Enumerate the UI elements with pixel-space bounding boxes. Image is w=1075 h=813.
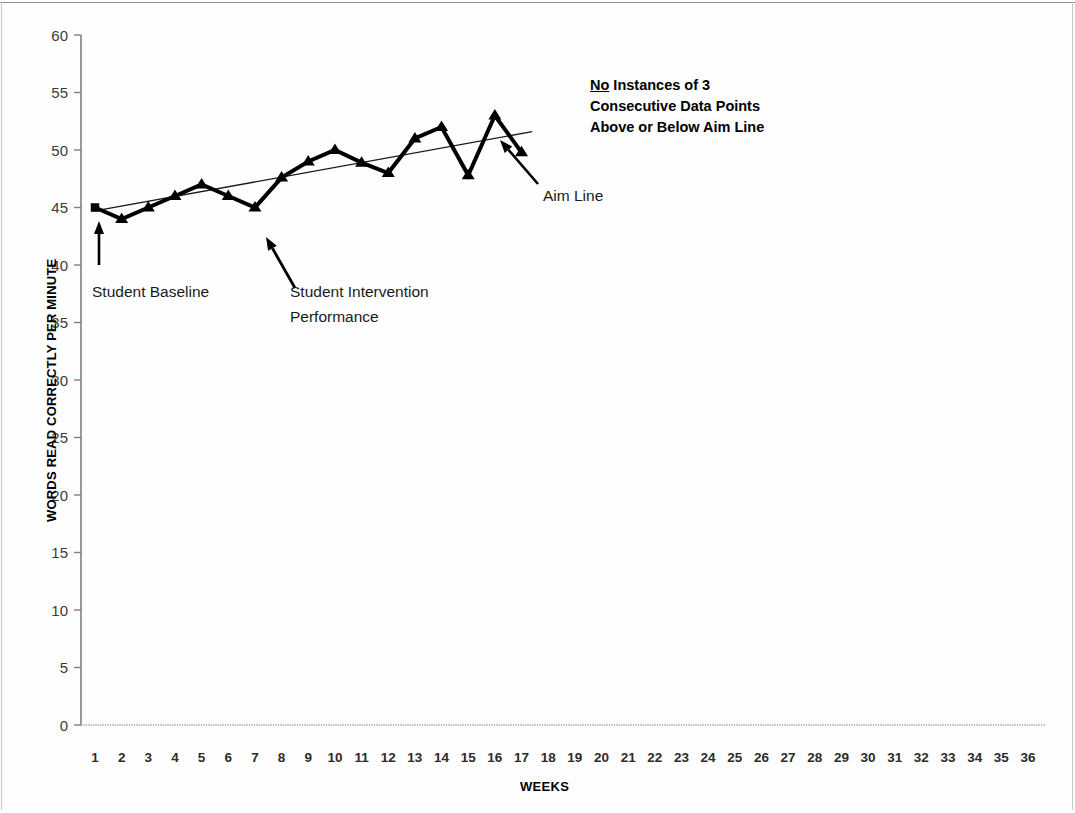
y-axis-title-container: WORDS READ CORRECTLY PER MINUTE <box>28 248 48 528</box>
x-tick-label: 22 <box>647 750 662 765</box>
x-tick-label: 6 <box>225 750 233 765</box>
x-tick-label: 36 <box>1020 750 1036 765</box>
series-polyline <box>95 116 522 220</box>
x-tick-label: 24 <box>701 750 717 765</box>
x-tick-label: 17 <box>514 750 529 765</box>
x-tick-label: 16 <box>487 750 503 765</box>
x-tick-label: 7 <box>251 750 259 765</box>
x-tick-label: 23 <box>674 750 690 765</box>
x-tick-label: 8 <box>278 750 286 765</box>
x-tick-label: 31 <box>887 750 903 765</box>
data-point-triangle <box>328 143 341 154</box>
x-tick-label: 19 <box>567 750 582 765</box>
student-intervention-arrow <box>266 237 295 288</box>
annotation-arrows <box>94 140 538 288</box>
annotation-student-intervention-line2: Performance <box>290 308 379 325</box>
x-tick-label: 4 <box>171 750 179 765</box>
annotation-student-intervention-line1: Student Intervention <box>290 283 429 300</box>
x-tick-label: 12 <box>381 750 396 765</box>
x-tick-label: 29 <box>834 750 849 765</box>
x-tick-label: 9 <box>304 750 312 765</box>
callout-line-2: Consecutive Data Points <box>590 96 764 117</box>
x-tick-label: 25 <box>727 750 743 765</box>
x-tick-label: 32 <box>914 750 929 765</box>
x-tick-label: 35 <box>994 750 1010 765</box>
y-tick-label: 0 <box>60 717 68 734</box>
x-tick-label: 5 <box>198 750 206 765</box>
student-baseline-arrow <box>94 221 104 265</box>
y-tick-label: 60 <box>51 27 68 44</box>
data-point-triangle <box>195 178 208 189</box>
x-tick-label: 15 <box>461 750 477 765</box>
y-tick-label: 50 <box>51 142 68 159</box>
x-tick-label: 11 <box>354 750 369 765</box>
data-point-triangle <box>488 109 501 120</box>
x-axis-title: WEEKS <box>520 779 569 794</box>
y-tick-label: 15 <box>51 544 68 561</box>
callout-line-1-rest: Instances of 3 <box>609 77 710 93</box>
x-tick-label: 30 <box>861 750 876 765</box>
y-tick-label: 45 <box>51 199 68 216</box>
annotation-labels: Student BaselineStudent InterventionPerf… <box>92 187 603 325</box>
x-tick-label: 10 <box>327 750 342 765</box>
x-tick-label: 28 <box>807 750 823 765</box>
x-tick-label: 18 <box>541 750 557 765</box>
annotation-student-baseline: Student Baseline <box>92 283 209 300</box>
x-tick-label: 3 <box>145 750 153 765</box>
data-point-triangle <box>435 120 448 131</box>
x-tick-label: 34 <box>967 750 983 765</box>
callout-line-3: Above or Below Aim Line <box>590 117 764 138</box>
x-tick-label: 1 <box>91 750 99 765</box>
x-tick-label: 27 <box>781 750 796 765</box>
annotation-aim-line-label: Aim Line <box>543 187 603 204</box>
y-tick-label: 5 <box>60 659 68 676</box>
x-tick-label: 20 <box>594 750 609 765</box>
x-tick-label: 13 <box>407 750 423 765</box>
chart-page: 051015202530354045505560 123456789101112… <box>0 0 1075 813</box>
callout-line-1: No Instances of 3 <box>590 75 764 96</box>
x-tick-label: 2 <box>118 750 126 765</box>
x-axis: 1234567891011121314151617181920212223242… <box>81 725 1046 765</box>
x-tick-label: 26 <box>754 750 770 765</box>
baseline-square-marker <box>91 203 100 212</box>
data-series <box>91 109 528 223</box>
x-tick-label: 33 <box>941 750 957 765</box>
y-axis-title: WORDS READ CORRECTLY PER MINUTE <box>44 259 59 522</box>
progress-monitoring-line-chart: 051015202530354045505560 123456789101112… <box>0 0 1075 813</box>
x-tick-label: 14 <box>434 750 450 765</box>
callout-no-instances: No Instances of 3 Consecutive Data Point… <box>590 75 764 138</box>
callout-underlined-word: No <box>590 77 609 93</box>
y-tick-label: 10 <box>51 602 68 619</box>
y-tick-label: 55 <box>51 84 68 101</box>
x-tick-label: 21 <box>621 750 637 765</box>
